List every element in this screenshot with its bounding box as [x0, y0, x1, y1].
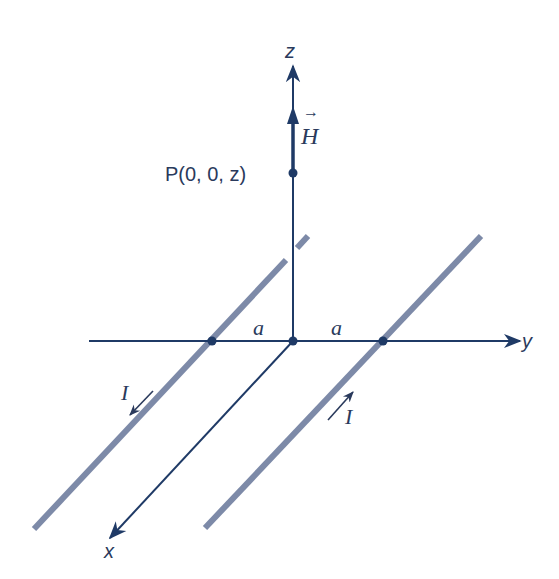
right-wire-intersection-point [379, 337, 388, 346]
y-axis-label: y [520, 330, 533, 352]
right-wire [205, 236, 481, 528]
left-wire-intersection-point [208, 337, 217, 346]
left-wire [34, 236, 308, 529]
distance-left-label: a [253, 315, 264, 340]
origin-point [289, 337, 298, 346]
diagram-canvas: z y x → H P(0, 0, z) a a I I [0, 0, 559, 579]
x-axis-label: x [103, 540, 115, 562]
h-vector-label: H [300, 123, 320, 149]
h-vector-arrow-glyph: → [303, 103, 319, 120]
left-current-label: I [120, 380, 130, 405]
h-field-vector [287, 106, 299, 173]
x-axis [110, 341, 293, 538]
distance-right-label: a [331, 315, 342, 340]
point-p [289, 169, 298, 178]
point-p-label: P(0, 0, z) [165, 163, 246, 185]
right-current-label: I [344, 404, 354, 429]
z-axis-label: z [284, 40, 295, 62]
